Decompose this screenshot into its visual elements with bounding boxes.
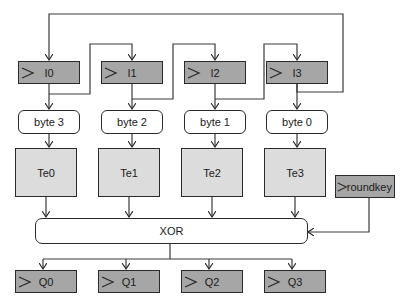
table-label: Te1 [120, 167, 138, 179]
table-label: Te2 [203, 167, 221, 179]
register-label: Q3 [288, 276, 303, 288]
byte-selector-0: byte 0 [266, 110, 328, 134]
register-label: I3 [292, 67, 301, 79]
clock-triangle-icon [184, 275, 198, 289]
table-label: Te0 [37, 167, 55, 179]
clock-triangle-icon [18, 275, 32, 289]
register-label: I1 [127, 67, 136, 79]
clock-triangle-icon [104, 66, 118, 80]
register-label: roundkey [347, 181, 392, 193]
table-te2: Te2 [181, 148, 243, 197]
aes-datapath-diagram: I0 I1 I2 I3 byte 3 byte 2 byte 1 byte 0 … [0, 0, 411, 307]
register-q1: Q1 [98, 270, 160, 293]
register-i0: I0 [18, 61, 80, 84]
register-i2: I2 [184, 61, 246, 84]
register-i3: I3 [266, 61, 328, 84]
register-q2: Q2 [181, 270, 243, 293]
register-label: Q1 [122, 276, 137, 288]
register-label: Q0 [39, 276, 54, 288]
clock-triangle-icon [21, 66, 35, 80]
register-q0: Q0 [15, 270, 77, 293]
byte-label: byte 0 [282, 116, 312, 128]
xor-block: XOR [35, 218, 308, 244]
clock-triangle-icon [101, 275, 115, 289]
register-label: Q2 [205, 276, 220, 288]
register-label: I0 [44, 67, 53, 79]
table-te1: Te1 [98, 148, 160, 197]
byte-selector-1: byte 1 [184, 110, 246, 134]
xor-label: XOR [160, 225, 184, 237]
clock-triangle-icon [267, 275, 281, 289]
table-te0: Te0 [15, 148, 77, 197]
register-label: I2 [210, 67, 219, 79]
byte-selector-3: byte 3 [18, 110, 80, 134]
byte-label: byte 1 [200, 116, 230, 128]
register-i1: I1 [101, 61, 163, 84]
clock-triangle-icon [187, 66, 201, 80]
register-q3: Q3 [264, 270, 326, 293]
clock-triangle-icon [269, 66, 283, 80]
table-te3: Te3 [264, 148, 326, 197]
byte-selector-2: byte 2 [101, 110, 163, 134]
byte-label: byte 3 [34, 116, 64, 128]
byte-label: byte 2 [117, 116, 147, 128]
register-roundkey: roundkey [335, 175, 395, 198]
table-label: Te3 [286, 167, 304, 179]
